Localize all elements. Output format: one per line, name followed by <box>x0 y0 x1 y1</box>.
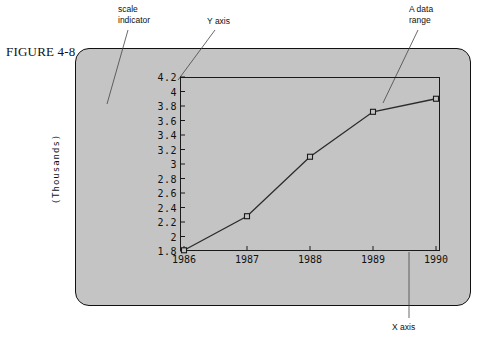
callout-y-axis: Y axis <box>207 16 230 27</box>
plot-series-layer <box>180 77 440 251</box>
y-axis-tick-label: 3.4 <box>131 130 177 141</box>
x-axis-tick-label: 1987 <box>235 254 259 265</box>
figure-root: FIGURE 4-8 scale indicator Y axis A data… <box>0 0 485 338</box>
figure-caption: FIGURE 4-8 <box>6 44 76 60</box>
data-point-marker <box>371 109 376 114</box>
y-axis-tick-label: 3 <box>131 159 177 170</box>
callout-data-range: A data range <box>409 4 433 25</box>
callout-x-axis: X axis <box>392 322 415 333</box>
data-point-marker <box>182 248 187 253</box>
y-axis-tick-label: 2.4 <box>131 202 177 213</box>
y-axis-tick-label: 4.2 <box>131 72 177 83</box>
y-axis-tick-label: 2.6 <box>131 188 177 199</box>
line-chart: (Thousands) 4.243.83.63.43.232.82.62.42.… <box>75 48 471 306</box>
y-axis-tick-label: 2.2 <box>131 217 177 228</box>
y-axis-title: (Thousands) <box>51 94 61 244</box>
data-point-marker <box>245 214 250 219</box>
y-axis-tick-label: 3.2 <box>131 144 177 155</box>
x-axis-tick-label: 1989 <box>361 254 385 265</box>
x-axis-tick-label: 1986 <box>172 254 196 265</box>
data-point-marker <box>308 154 313 159</box>
data-series-line <box>184 99 436 251</box>
y-axis-tick-label: 2 <box>131 231 177 242</box>
data-point-marker <box>434 96 439 101</box>
y-axis-tick-label: 4 <box>131 86 177 97</box>
y-axis-tick-label: 3.8 <box>131 101 177 112</box>
y-axis-tick-label: 1.8 <box>131 246 177 257</box>
y-axis-tick-labels: 4.243.83.63.43.232.82.62.42.221.8 <box>127 77 177 251</box>
x-axis-tick-label: 1990 <box>424 254 448 265</box>
callout-scale-indicator: scale indicator <box>118 4 150 25</box>
y-axis-tick-label: 3.6 <box>131 115 177 126</box>
y-axis-tick-label: 2.8 <box>131 173 177 184</box>
x-axis-tick-label: 1988 <box>298 254 322 265</box>
